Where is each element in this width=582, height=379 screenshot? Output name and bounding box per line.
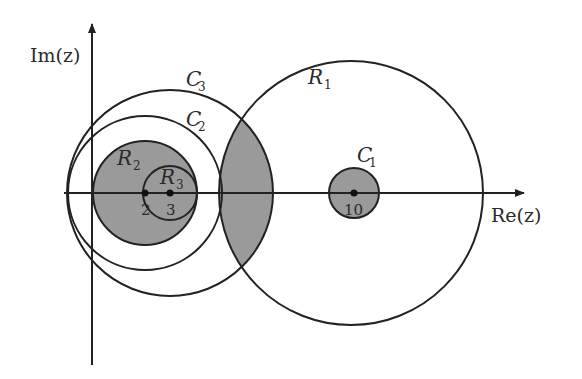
svg-text:3: 3 (198, 80, 206, 94)
svg-text:2: 2 (133, 159, 141, 173)
svg-text:3: 3 (176, 178, 184, 192)
svg-text:R: R (116, 146, 132, 170)
point-label-10: 10 (344, 201, 363, 219)
y-axis-label: Im(z) (30, 44, 80, 66)
x-axis-label: Re(z) (491, 204, 541, 226)
point-3 (167, 190, 174, 197)
complex-plane-diagram: 2 3 10 Im(z) Re(z) C 3 C 2 R 1 R 2 R 3 C… (0, 0, 582, 379)
point-2 (142, 190, 149, 197)
svg-text:R: R (159, 165, 175, 189)
label-c3: C 3 (186, 67, 206, 94)
svg-text:1: 1 (324, 78, 332, 92)
svg-text:2: 2 (198, 120, 206, 134)
label-r1: R 1 (307, 65, 332, 92)
label-c2: C 2 (186, 107, 206, 134)
label-c1: C 1 (357, 143, 377, 170)
point-10 (351, 190, 358, 197)
svg-text:R: R (307, 65, 323, 89)
svg-text:1: 1 (369, 156, 377, 170)
point-label-2: 2 (141, 201, 151, 219)
point-label-3: 3 (166, 201, 176, 219)
